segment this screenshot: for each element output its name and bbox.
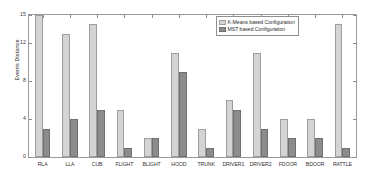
plot-frame: 0481215 RLALLACUBFLIGHTBLIGHTHOODTRUNKDR… [28,14,357,158]
bar-trunk-series-0 [198,129,206,157]
x-tick-mark [315,15,316,18]
y-tick-mark [353,119,356,120]
x-tick-label-lla: LLA [56,161,83,167]
bar-driver1-series-1 [233,110,241,157]
y-axis-title: Events Distance [14,17,20,103]
y-tick-mark [29,157,32,158]
y-tick-label: 12 [20,39,26,45]
legend-label: MST based Configuration [228,26,286,32]
y-tick-mark [29,15,32,16]
plot-area: 0481215 [29,15,356,157]
x-tick-label-bdoor: BDOOR [302,161,329,167]
x-tick-label-rla: RLA [29,161,56,167]
legend-label: K-Means based Configuration [228,19,295,25]
bar-driver1-series-0 [226,100,234,157]
x-tick-mark [97,15,98,18]
legend-swatch-icon [219,27,226,32]
bar-rla-series-0 [35,15,43,157]
bar-fdoor-series-0 [280,119,288,157]
y-tick-label: 0 [23,153,26,159]
bar-cub-series-1 [97,110,105,157]
bar-hood-series-1 [179,72,187,157]
bar-flight-series-0 [117,110,125,157]
x-tick-mark [179,15,180,18]
y-tick-label: 4 [23,115,26,121]
x-tick-label-fdoor: FDOOR [274,161,301,167]
bar-rattle-series-1 [342,148,350,157]
y-tick-mark [353,81,356,82]
x-tick-mark [206,15,207,18]
bar-chart-figure: Events Distance 0481215 RLALLACUBFLIGHTB… [0,0,367,183]
x-tick-label-blight: BLIGHT [138,161,165,167]
y-tick-mark [353,157,356,158]
x-tick-mark [70,15,71,18]
x-tick-label-driver1: DRIVER1 [220,161,247,167]
x-tick-label-rattle: RATTLE [329,161,356,167]
legend-item-1[interactable]: MST based Configuration [219,26,295,33]
x-tick-label-trunk: TRUNK [193,161,220,167]
x-tick-mark [152,15,153,18]
y-tick-mark [353,15,356,16]
bar-blight-series-1 [152,138,160,157]
x-tick-mark [43,15,44,18]
bar-bdoor-series-0 [307,119,315,157]
x-tick-mark [124,15,125,18]
bar-blight-series-0 [144,138,152,157]
bar-hood-series-0 [171,53,179,157]
y-tick-label: 8 [23,77,26,83]
bar-fdoor-series-1 [288,138,296,157]
bar-cub-series-0 [89,24,97,157]
bar-driver2-series-0 [253,53,261,157]
legend-item-0[interactable]: K-Means based Configuration [219,19,295,26]
x-tick-label-cub: CUB [84,161,111,167]
x-tick-mark [342,15,343,18]
bar-lla-series-0 [62,34,70,157]
x-tick-label-hood: HOOD [165,161,192,167]
bar-rla-series-1 [43,129,51,157]
y-tick-mark [353,43,356,44]
x-tick-label-driver2: DRIVER2 [247,161,274,167]
legend-swatch-icon [219,20,226,25]
y-tick-mark [29,81,32,82]
bar-rattle-series-0 [335,24,343,157]
bar-flight-series-1 [124,148,132,157]
y-tick-label: 15 [20,11,26,17]
bar-bdoor-series-1 [315,138,323,157]
bar-lla-series-1 [70,119,78,157]
bar-trunk-series-1 [206,148,214,157]
chart-legend: K-Means based ConfigurationMST based Con… [216,16,299,36]
bar-driver2-series-1 [261,129,269,157]
x-tick-label-flight: FLIGHT [111,161,138,167]
y-tick-mark [29,43,32,44]
y-tick-mark [29,119,32,120]
